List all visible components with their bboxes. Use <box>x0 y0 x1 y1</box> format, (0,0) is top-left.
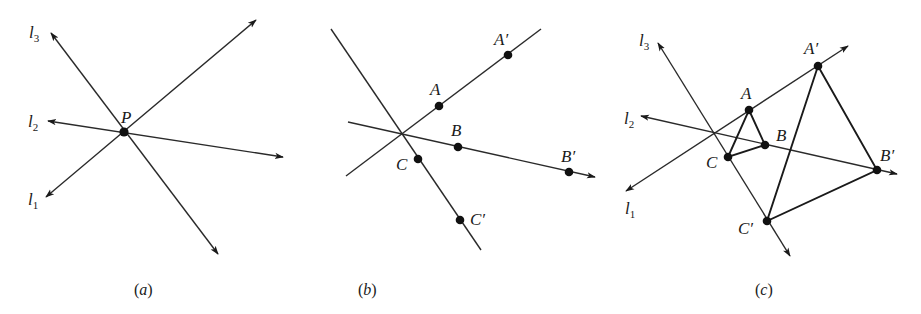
point-A <box>745 106 754 115</box>
point-B <box>761 141 770 150</box>
label-A-prime: A′ <box>803 39 818 58</box>
point-A <box>435 102 444 111</box>
panel-a: P l3 l2 l1 (a) <box>28 20 283 299</box>
label-B: B <box>776 126 787 145</box>
label-A: A <box>740 84 752 103</box>
point-A-prime <box>504 51 513 60</box>
label-A-prime: A′ <box>493 30 508 49</box>
point-P <box>119 127 128 136</box>
label-C-prime: C′ <box>738 219 753 238</box>
point-B-prime <box>565 168 574 177</box>
caption-c: (c) <box>755 281 773 299</box>
label-l2: l2 <box>28 112 38 133</box>
line-l2 <box>48 121 283 157</box>
point-C-prime <box>456 216 465 225</box>
label-C: C <box>396 155 408 174</box>
caption-b: (b) <box>358 281 377 299</box>
caption-a: (a) <box>134 281 153 299</box>
label-P: P <box>120 108 131 127</box>
label-A: A <box>429 80 441 99</box>
label-B: B <box>451 121 462 140</box>
point-C <box>724 153 733 162</box>
label-l3: l3 <box>639 31 650 52</box>
label-C: C <box>706 153 718 172</box>
point-C <box>414 155 423 164</box>
label-l3: l3 <box>29 23 40 44</box>
line-l1 <box>46 20 256 197</box>
line-through-A <box>346 29 541 176</box>
point-B-prime <box>873 166 882 175</box>
label-l2: l2 <box>624 109 634 130</box>
panel-c: A A′ B B′ C C′ l3 l2 l1 (c) <box>624 31 897 299</box>
point-C-prime <box>763 217 772 226</box>
label-B-prime: B′ <box>880 146 894 165</box>
line-through-B <box>348 122 595 177</box>
triangle-ABC <box>728 110 765 157</box>
label-l1: l1 <box>28 190 38 211</box>
label-B-prime: B′ <box>561 147 575 166</box>
desargues-figure: P l3 l2 l1 (a) A A′ B B′ C C′ (b) <box>0 0 921 314</box>
label-l1: l1 <box>625 199 635 220</box>
panel-b: A A′ B B′ C C′ (b) <box>331 29 595 299</box>
label-C-prime: C′ <box>470 210 485 229</box>
point-A-prime <box>814 62 823 71</box>
line-l3 <box>658 43 790 256</box>
point-B <box>454 143 463 152</box>
